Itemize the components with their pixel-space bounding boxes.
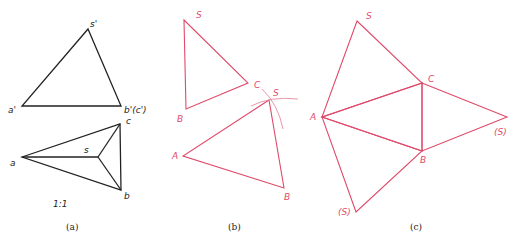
- label-lower-a: A: [171, 151, 178, 161]
- diagram-canvas: s' a' b'(c') a c s b 1:1 (a) S C B S A B…: [0, 0, 518, 243]
- label-c-s-bottom: (S): [338, 207, 351, 217]
- label-b: b: [124, 191, 130, 201]
- front-view-triangle: [22, 29, 121, 106]
- label-lower-b: B: [284, 192, 290, 202]
- caption-b: (b): [228, 222, 241, 232]
- label-c-c: C: [428, 74, 435, 84]
- panel-a: s' a' b'(c') a c s b 1:1 (a): [8, 19, 147, 232]
- face-a-b-s-bottom: [322, 117, 422, 212]
- edge-s-c: [98, 124, 120, 157]
- label-upper-c: C: [254, 80, 261, 90]
- face-s-a-c: [322, 21, 422, 117]
- triangle-sbc: [184, 20, 248, 109]
- label-upper-s: S: [196, 10, 202, 20]
- label-upper-b: B: [177, 114, 183, 124]
- face-c-b-s-right: [422, 83, 507, 151]
- label-c-s-right: (S): [494, 127, 507, 137]
- scale-label: 1:1: [53, 199, 67, 209]
- label-b-prime-c-prime: b'(c'): [124, 105, 147, 115]
- triangle-sab: [183, 100, 284, 188]
- label-a-prime: a': [8, 105, 16, 115]
- label-s: s: [84, 145, 89, 155]
- label-a: a: [10, 158, 16, 168]
- panel-c: S C A B (S) (S) (c): [309, 11, 507, 232]
- label-s-prime: s': [90, 19, 97, 29]
- face-base-a-b-c: [322, 83, 422, 151]
- label-c-b: B: [420, 155, 426, 165]
- caption-a: (a): [66, 222, 78, 232]
- panel-b: S C B S A B (b): [171, 10, 298, 232]
- label-c-a: A: [309, 112, 316, 122]
- edge-s-b: [98, 157, 121, 190]
- label-lower-s: S: [273, 88, 279, 98]
- label-c-s-top: S: [366, 11, 372, 21]
- caption-c: (c): [410, 222, 422, 232]
- label-c: c: [126, 116, 131, 126]
